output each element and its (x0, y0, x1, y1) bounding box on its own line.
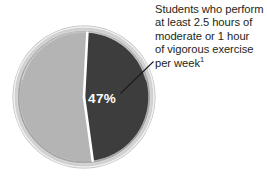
pie-chart-figure: 47% Students who perform at least 2.5 ho… (0, 0, 267, 183)
annotation-line-3: moderate or 1 hour (155, 30, 267, 43)
slice-percentage-label: 47% (88, 91, 116, 106)
annotation-line-5: per week1 (155, 57, 267, 70)
annotation-line-4: of vigorous exercise (155, 43, 267, 56)
annotation-callout-text: Students who perform at least 2.5 hours … (155, 3, 267, 70)
annotation-line-1: Students who perform (155, 3, 267, 16)
annotation-line-5-text: per week (155, 57, 200, 69)
annotation-line-2: at least 2.5 hours of (155, 16, 267, 29)
footnote-marker: 1 (200, 55, 204, 64)
